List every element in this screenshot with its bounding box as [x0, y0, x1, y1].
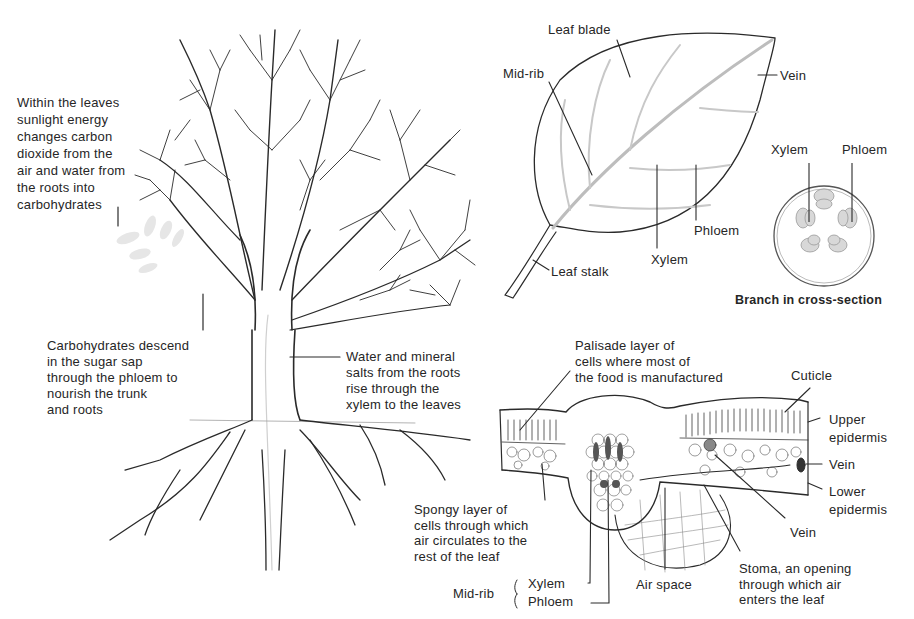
- branch-cross-section-caption: Branch in cross-section: [735, 292, 882, 308]
- spongy-layer-label: Spongy layer of cells through which air …: [414, 502, 528, 564]
- photosynthesis-note: Within the leaves sunlight energy change…: [17, 94, 125, 213]
- lower-epidermis-label: Lower epidermis: [829, 483, 887, 519]
- leaf-stalk-label: Leaf stalk: [551, 264, 609, 280]
- palisade-layer-label: Palisade layer of cells where most of th…: [575, 338, 723, 386]
- midrib-xylem-label: Xylem: [528, 576, 565, 592]
- vein-bottom-label: Vein: [790, 525, 816, 541]
- midrib-phloem-label: Phloem: [528, 594, 573, 610]
- leaf-sprig-icon: [115, 214, 186, 275]
- leaf-xylem-label: Xylem: [651, 252, 688, 268]
- branch-cross-section: [774, 163, 874, 286]
- phloem-descent-note: Carbohydrates descend in the sugar sap t…: [47, 338, 189, 418]
- air-space-label: Air space: [636, 577, 692, 593]
- mid-rib-label: Mid-rib: [503, 66, 544, 82]
- upper-epidermis-label: Upper epidermis: [829, 411, 887, 447]
- branch-xylem-label: Xylem: [771, 142, 808, 158]
- xylem-ascent-note: Water and mineral salts from the roots r…: [346, 349, 461, 413]
- leaf-phloem-label: Phloem: [694, 223, 739, 239]
- leaf-illustration: [505, 33, 777, 298]
- leaf-blade-label: Leaf blade: [548, 22, 611, 38]
- vein-label: Vein: [780, 68, 806, 84]
- midrib-group-label: Mid-rib: [453, 586, 494, 602]
- vein-right-label: Vein: [829, 457, 855, 473]
- cuticle-label: Cuticle: [791, 368, 832, 384]
- branch-phloem-label: Phloem: [842, 142, 887, 158]
- tree-illustration: [110, 30, 475, 570]
- stoma-label: Stoma, an opening through which air ente…: [739, 561, 852, 608]
